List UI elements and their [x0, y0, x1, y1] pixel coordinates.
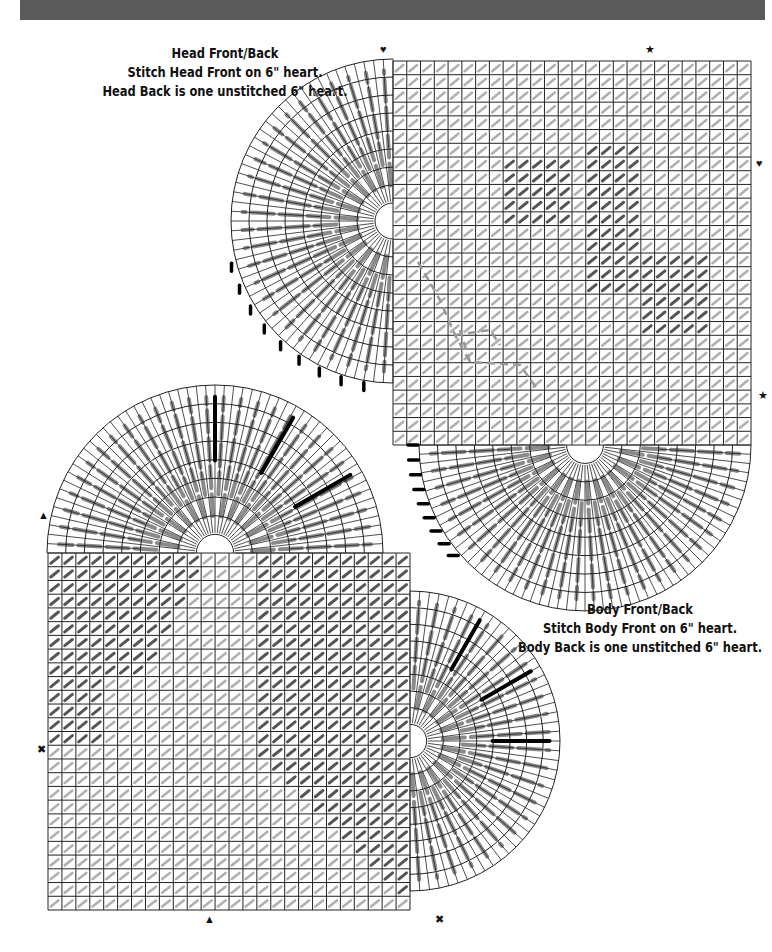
half-cross-stitch	[134, 722, 142, 728]
half-cross-stitch	[274, 887, 282, 893]
half-cross-stitch	[162, 845, 170, 851]
half-cross-stitch	[371, 708, 379, 714]
half-cross-stitch	[657, 175, 665, 181]
half-cross-stitch	[51, 873, 59, 879]
half-cross-stitch	[671, 381, 679, 387]
half-cross-stitch	[396, 408, 404, 414]
half-cross-stitch	[671, 353, 679, 359]
half-cross-stitch	[148, 598, 156, 604]
half-cross-stitch	[301, 887, 309, 893]
half-cross-stitch	[616, 230, 624, 236]
half-cross-stitch	[630, 339, 638, 345]
half-cross-stitch	[671, 394, 679, 400]
half-cross-stitch	[329, 722, 337, 728]
half-cross-stitch	[423, 134, 431, 140]
half-cross-stitch	[616, 312, 624, 318]
half-cross-stitch	[547, 367, 555, 373]
half-cross-stitch	[561, 243, 569, 249]
half-cross-stitch	[699, 230, 707, 236]
half-cross-stitch	[176, 640, 184, 646]
half-cross-stitch	[79, 900, 87, 906]
half-cross-stitch	[644, 161, 652, 167]
half-cross-stitch	[465, 147, 473, 153]
half-cross-stitch	[162, 749, 170, 755]
half-cross-stitch	[657, 120, 665, 126]
half-cross-stitch	[726, 120, 734, 126]
half-cross-stitch	[451, 312, 459, 318]
half-cross-stitch	[726, 65, 734, 71]
half-cross-stitch	[65, 900, 73, 906]
half-cross-stitch	[287, 749, 295, 755]
half-cross-stitch	[657, 93, 665, 99]
half-cross-stitch	[451, 243, 459, 249]
half-cross-stitch	[120, 557, 128, 563]
half-cross-stitch	[246, 626, 254, 632]
half-cross-stitch	[162, 681, 170, 687]
half-cross-stitch	[699, 408, 707, 414]
half-cross-stitch	[204, 804, 212, 810]
half-cross-stitch	[134, 598, 142, 604]
half-cross-stitch	[437, 353, 445, 359]
half-cross-stitch	[106, 667, 114, 673]
half-cross-stitch	[385, 640, 393, 646]
half-cross-stitch	[685, 257, 693, 263]
half-cross-stitch	[671, 367, 679, 373]
half-cross-stitch	[396, 257, 404, 263]
half-cross-stitch	[79, 722, 87, 728]
half-cross-stitch	[232, 749, 240, 755]
half-cross-stitch	[575, 435, 583, 441]
half-cross-stitch	[478, 120, 486, 126]
half-cross-stitch	[630, 408, 638, 414]
half-cross-stitch	[301, 585, 309, 591]
half-cross-stitch	[148, 736, 156, 742]
half-cross-stitch	[260, 873, 268, 879]
half-cross-stitch	[533, 257, 541, 263]
half-cross-stitch	[492, 326, 500, 332]
half-cross-stitch	[106, 708, 114, 714]
half-cross-stitch	[410, 175, 418, 181]
half-cross-stitch	[218, 845, 226, 851]
half-cross-stitch	[120, 804, 128, 810]
half-cross-stitch	[190, 873, 198, 879]
half-cross-stitch	[602, 106, 610, 112]
half-cross-stitch	[506, 326, 514, 332]
half-cross-stitch	[506, 257, 514, 263]
half-cross-stitch	[246, 585, 254, 591]
half-cross-stitch	[726, 243, 734, 249]
half-cross-stitch	[287, 900, 295, 906]
half-cross-stitch	[329, 653, 337, 659]
half-cross-stitch	[51, 736, 59, 742]
half-cross-stitch	[616, 243, 624, 249]
half-cross-stitch	[726, 230, 734, 236]
half-cross-stitch	[616, 147, 624, 153]
half-cross-stitch	[176, 887, 184, 893]
half-cross-stitch	[93, 571, 101, 577]
half-cross-stitch	[134, 681, 142, 687]
half-cross-stitch	[465, 285, 473, 291]
half-cross-stitch	[176, 818, 184, 824]
half-cross-stitch	[437, 65, 445, 71]
ring-bar	[375, 203, 393, 239]
half-cross-stitch	[315, 887, 323, 893]
half-cross-stitch	[575, 339, 583, 345]
half-cross-stitch	[343, 612, 351, 618]
half-cross-stitch	[712, 106, 720, 112]
half-cross-stitch	[423, 189, 431, 195]
half-cross-stitch	[385, 694, 393, 700]
half-cross-stitch	[492, 120, 500, 126]
half-cross-stitch	[385, 681, 393, 687]
half-cross-stitch	[533, 285, 541, 291]
half-cross-stitch	[246, 791, 254, 797]
half-cross-stitch	[176, 585, 184, 591]
half-cross-stitch	[371, 585, 379, 591]
half-cross-stitch	[232, 681, 240, 687]
half-cross-stitch	[575, 298, 583, 304]
half-cross-stitch	[533, 202, 541, 208]
half-cross-stitch	[204, 749, 212, 755]
half-cross-stitch	[712, 175, 720, 181]
half-cross-stitch	[120, 681, 128, 687]
half-cross-stitch	[506, 435, 514, 441]
half-cross-stitch	[176, 653, 184, 659]
half-cross-stitch	[190, 900, 198, 906]
half-cross-stitch	[699, 312, 707, 318]
